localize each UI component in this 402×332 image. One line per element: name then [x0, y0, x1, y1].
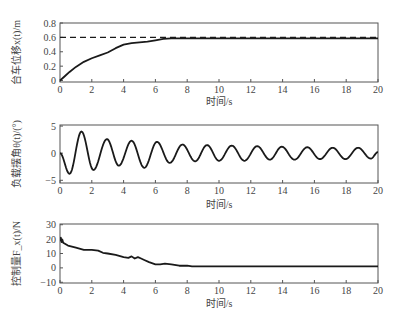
x-tick-label: 2 — [89, 285, 94, 296]
control-force-plot: 02468101214161820−100102030时间/s控制量F_x(t)… — [0, 0, 402, 332]
x-tick-label: 16 — [309, 285, 319, 296]
x-tick-label: 0 — [58, 285, 63, 296]
x-tick-label: 4 — [121, 285, 126, 296]
y-tick-label: 0 — [51, 262, 56, 273]
x-tick-label: 12 — [246, 285, 256, 296]
x-tick-label: 14 — [278, 285, 288, 296]
chart-control-force: 02468101214161820−100102030时间/s控制量F_x(t)… — [0, 0, 402, 332]
x-tick-label: 18 — [341, 285, 351, 296]
x-tick-label: 6 — [153, 285, 158, 296]
x-tick-label: 20 — [373, 285, 383, 296]
x-tick-label: 10 — [214, 285, 224, 296]
y-tick-label: 10 — [46, 248, 56, 259]
x-axis-title: 时间/s — [206, 297, 233, 309]
y-tick-label: 20 — [46, 234, 56, 245]
x-tick-label: 8 — [185, 285, 190, 296]
y-tick-label: −10 — [40, 277, 56, 288]
data-line — [60, 238, 378, 267]
y-tick-label: 30 — [46, 219, 56, 230]
y-axis-title: 控制量F_x(t)/N — [10, 221, 23, 286]
